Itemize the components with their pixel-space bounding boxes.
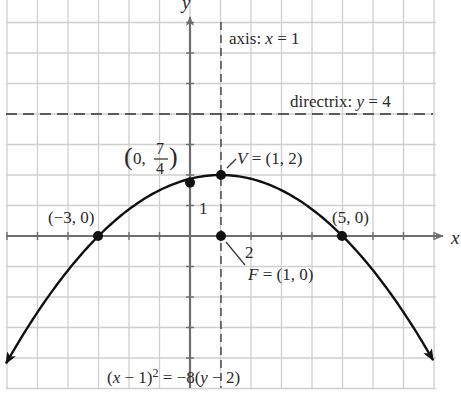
y-intercept-label: ( 0, 7 4 ) xyxy=(124,140,178,177)
parabola-left-branch xyxy=(6,175,220,363)
axis-of-symmetry-label: axis: x = 1 xyxy=(229,29,300,48)
vertex-point xyxy=(216,170,226,180)
vertex-leader-line xyxy=(227,159,236,168)
parabola-figure: y x 1 2 axis: x = 1 directrix: y = 4 ( 0… xyxy=(0,0,461,405)
y-intercept-prefix: 0, xyxy=(133,149,146,168)
tick-label-x-2: 2 xyxy=(245,243,254,262)
y-intercept-open-paren: ( xyxy=(124,142,133,171)
tick-label-y-1: 1 xyxy=(199,199,208,218)
focus-leader-line xyxy=(226,242,245,265)
parabola-equation: (x − 1)2 = −8(y − 2) xyxy=(107,366,240,387)
right-x-intercept-point xyxy=(337,231,347,241)
vertex-label: V = (1, 2) xyxy=(237,149,302,168)
left-x-intercept-point xyxy=(93,231,103,241)
y-intercept-close-paren: ) xyxy=(169,142,178,171)
y-axis-label: y xyxy=(180,0,191,13)
focus-label: F = (1, 0) xyxy=(247,265,313,284)
x-axis-label: x xyxy=(450,227,460,248)
y-intercept-numerator: 7 xyxy=(156,140,164,157)
chart-canvas: y x 1 2 axis: x = 1 directrix: y = 4 ( 0… xyxy=(0,0,461,405)
directrix-label: directrix: y = 4 xyxy=(290,92,391,111)
focus-point xyxy=(216,231,226,241)
y-intercept-point xyxy=(185,178,195,188)
left-x-intercept-label: (−3, 0) xyxy=(48,208,94,227)
right-x-intercept-label: (5, 0) xyxy=(332,208,369,227)
y-intercept-denominator: 4 xyxy=(156,160,164,177)
